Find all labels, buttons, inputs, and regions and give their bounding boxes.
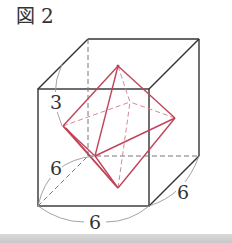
cube-visible-edges [38,39,199,206]
label-6-bottom: 6 [89,211,101,233]
label-6-right: 6 [177,181,189,203]
bottom-bar [0,234,232,243]
label-3: 3 [50,91,62,113]
octahedron-visible-edges [63,66,175,188]
cube-octahedron-diagram: 3 6 6 6 [0,0,232,243]
octahedron-apex [117,65,120,68]
dimension-arcs [38,64,199,222]
label-6-left: 6 [50,157,62,179]
octahedron-hidden-edges [63,66,175,188]
